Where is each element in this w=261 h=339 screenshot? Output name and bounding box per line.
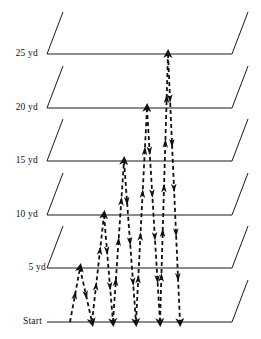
lane-label-5yd: 5 yd [0, 263, 46, 273]
run-4-outbound-arrow-3 [140, 189, 146, 198]
run-5-outbound-arrow-3 [161, 183, 167, 192]
run-4-outbound-arrow-2 [137, 232, 143, 241]
run-3-return-arrow-3 [130, 277, 136, 286]
lane-label-10yd: 10 yd [0, 210, 38, 220]
lane-right-slant-m5 [232, 226, 248, 268]
lane-line-group [47, 12, 248, 322]
lane-right-slant-m25 [232, 12, 248, 54]
run-4-return-arrow-2 [149, 189, 155, 198]
diagram-canvas [0, 0, 261, 339]
lane-right-slant-m20 [232, 66, 248, 108]
run-2-return-arrow-2 [107, 282, 113, 291]
lane-left-slant-m5 [47, 226, 63, 268]
run-4-outbound-arrow-1 [135, 275, 141, 284]
run-4-return-arrow-1 [147, 146, 153, 155]
run-path-group [70, 54, 181, 322]
run-4-return-arrow-3 [152, 232, 158, 241]
lane-label-start: Start [0, 317, 42, 327]
lane-left-slant-m20 [47, 66, 63, 108]
lane-left-slant-m15 [47, 119, 63, 161]
shuttle-run-diagram: 25 yd 20 yd 15 yd 10 yd 5 yd Start [0, 0, 261, 339]
lane-label-25yd: 25 yd [0, 49, 38, 59]
run-5-outbound-arrow-1 [158, 273, 164, 282]
lane-label-15yd: 15 yd [0, 156, 38, 166]
run-2-outbound-arrow-2 [97, 246, 104, 256]
run-5-return-arrow-3 [171, 183, 177, 192]
lane-label-20yd: 20 yd [0, 103, 38, 113]
lane-left-slant-m25 [47, 12, 63, 54]
run-2-return-arrow-1 [104, 246, 110, 255]
lane-right-slant-start [232, 280, 248, 322]
run-2-outbound-arrow-1 [93, 282, 100, 292]
run-3-outbound-arrow-3 [118, 197, 124, 206]
lane-right-slant-m15 [232, 119, 248, 161]
lane-left-slant-m10 [47, 173, 63, 215]
lane-right-slant-m10 [232, 173, 248, 215]
